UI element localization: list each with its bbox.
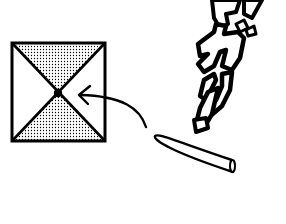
apex-dot [54, 89, 62, 97]
sfx-glyph-ga [198, 24, 244, 72]
sound-effect-glyphs [194, 0, 262, 132]
sfx-trailing-end [194, 118, 208, 132]
arrow-to-apex [79, 86, 146, 127]
stick [155, 135, 235, 172]
arrow-shaft [80, 95, 146, 127]
stick-end [230, 160, 235, 172]
pyramid-top-view [12, 43, 105, 141]
illustration-canvas [0, 0, 286, 224]
stick-body [155, 135, 233, 172]
pyramid-face-bottom [12, 93, 105, 141]
